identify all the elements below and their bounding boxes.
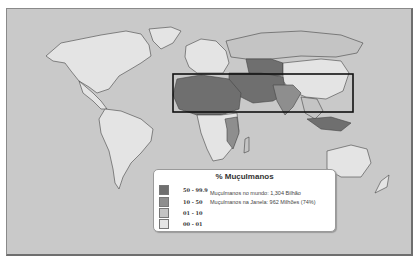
legend-class-4: 00 - 01 (159, 218, 202, 229)
india (273, 85, 301, 115)
legend-swatch (159, 208, 169, 218)
madagascar (244, 137, 249, 153)
legend-label: 00 - 01 (183, 221, 202, 227)
indonesia (307, 117, 351, 131)
legend-class-3: 01 - 10 (159, 207, 202, 218)
europe (185, 39, 229, 73)
north-america (46, 31, 151, 93)
stat-world: Muçulmanos no mundo: 1,304 Bilhão (210, 190, 301, 196)
legend-class-2: 10 - 50 (159, 196, 202, 207)
legend-title: % Muçulmanos (154, 172, 335, 181)
legend-box: % Muçulmanos 50 - 99.9 10 - 50 01 - 10 0… (153, 169, 336, 232)
stat-window: Muçulmanos na Janela: 962 Milhões (74%) (210, 199, 315, 205)
north-africa (173, 75, 241, 115)
greenland (149, 27, 181, 49)
new-zealand (375, 175, 389, 193)
legend-label: 10 - 50 (183, 199, 202, 205)
south-america (99, 109, 153, 189)
russia (226, 31, 363, 59)
legend-label: 50 - 99.9 (183, 187, 208, 193)
legend-swatch (159, 197, 169, 207)
legend-swatch (159, 219, 169, 229)
map-frame: % Muçulmanos 50 - 99.9 10 - 50 01 - 10 0… (6, 8, 413, 256)
legend-label: 01 - 10 (183, 210, 202, 216)
southeast-asia (301, 97, 323, 119)
legend-class-1: 50 - 99.9 (159, 184, 208, 195)
legend-swatch (159, 185, 169, 195)
